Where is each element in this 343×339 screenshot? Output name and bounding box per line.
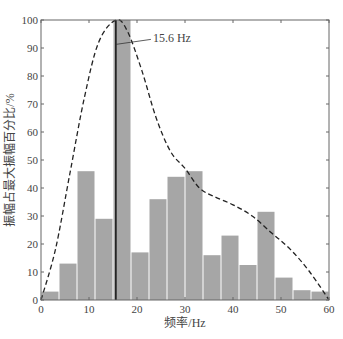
histogram-bar (168, 177, 185, 300)
histogram-bar (204, 255, 221, 300)
x-tick-label: 10 (84, 303, 96, 315)
y-tick-label: 40 (27, 182, 39, 194)
y-tick-label: 50 (27, 154, 39, 166)
y-tick-label: 60 (27, 126, 39, 138)
histogram-bar (240, 265, 257, 300)
x-tick-label: 50 (276, 303, 288, 315)
x-tick-label: 40 (228, 303, 240, 315)
histogram-bar (294, 290, 311, 300)
x-tick-label: 0 (38, 303, 44, 315)
histogram-bar (222, 236, 239, 300)
y-tick-label: 20 (27, 238, 39, 250)
histogram-bar (186, 171, 203, 300)
histogram-bar (96, 219, 113, 300)
histogram-bar (78, 171, 95, 300)
y-tick-label: 70 (27, 98, 39, 110)
x-tick-label: 30 (180, 303, 192, 315)
histogram-bar (60, 264, 77, 300)
y-tick-label: 100 (22, 14, 39, 26)
y-tick-label: 80 (27, 70, 39, 82)
histogram-bar (276, 278, 293, 300)
x-axis-title: 频率/Hz (164, 315, 205, 330)
y-axis-title: 振幅占最大振幅百分比/% (2, 93, 17, 226)
chart-canvas: 15.6 Hz 0102030405060 010203040506070809… (0, 0, 343, 339)
y-tick-label: 10 (27, 266, 39, 278)
histogram-bar (258, 212, 275, 300)
histogram-bar (42, 292, 59, 300)
histogram-bar (312, 292, 329, 300)
y-tick-label: 90 (27, 42, 39, 54)
histogram-bar (132, 252, 149, 300)
y-tick-label: 30 (27, 210, 39, 222)
histogram-bars (42, 20, 329, 300)
histogram-bar (150, 199, 167, 300)
x-tick-label: 20 (132, 303, 144, 315)
y-tick-label: 0 (33, 294, 39, 306)
x-tick-label: 60 (324, 303, 336, 315)
peak-frequency-annotation: 15.6 Hz (153, 31, 191, 45)
